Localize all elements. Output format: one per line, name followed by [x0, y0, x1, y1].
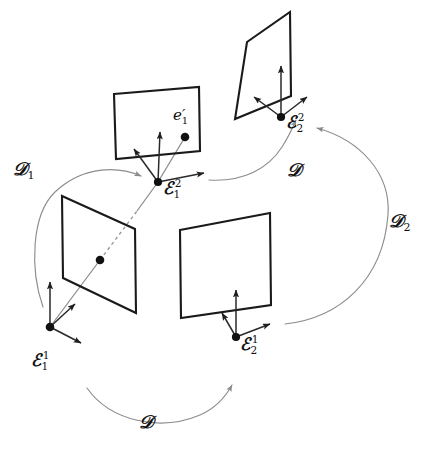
axis-depth-E-2-2: [254, 97, 281, 117]
frame-label-E-2-2: ℰ22: [286, 112, 304, 133]
ray-segment-upper: [137, 182, 158, 211]
frame-origin-dot-E-2-1: [232, 333, 240, 341]
frame-label-E-2-2-sub: 2: [297, 122, 304, 134]
map-label-D-bottom: 𝒟: [139, 413, 154, 434]
map-curve-D-top: [209, 120, 296, 180]
point-label-e-prime-1-sub: 1: [182, 115, 188, 126]
frame-origin-dot-E-1-1: [46, 323, 55, 332]
frame-origin-dot-E-1-2: [154, 178, 162, 186]
frame-label-E-2-1-sub: 2: [251, 344, 258, 356]
axis-depth-E-1-2: [134, 149, 158, 182]
frame-label-E-2-2-base: ℰ: [286, 112, 296, 132]
map-label-D-top: 𝒟: [287, 161, 302, 182]
frame-label-E-2-1: ℰ21: [240, 334, 258, 355]
ray-segment-lower: [50, 260, 100, 327]
frame-label-E-1-1-sub: 1: [42, 360, 49, 372]
diagram-canvas: [0, 0, 427, 452]
map-label-D-2-base: 𝒟: [389, 210, 403, 231]
map-label-D-2: 𝒟2: [389, 212, 411, 233]
frame-label-E-2-1-sup: 1: [252, 333, 259, 345]
epipole-point-dot: [181, 133, 190, 142]
frame-label-E-1-1-sup: 1: [43, 349, 50, 361]
map-label-D-2-sub: 2: [404, 221, 411, 234]
image-plane-bottom-right: [180, 213, 271, 318]
map-label-D-1-base: 𝒟: [13, 158, 27, 179]
frame-label-E-2-2-sup: 2: [298, 111, 305, 123]
frame-label-E-1-2-sub: 1: [174, 188, 181, 200]
scene-point-dot-left-plane: [96, 256, 105, 265]
axis-depth-E-2-1: [222, 313, 236, 337]
geometry-diagram-figure: ℰ12 ℰ22 ℰ11 ℰ21 e′1 𝒟1 𝒟 𝒟2 𝒟: [0, 0, 427, 452]
axis-depth-E-1-1: [50, 304, 75, 327]
axis-up-E-1-2: [158, 132, 160, 182]
point-label-e-prime-1-base: e: [173, 106, 182, 124]
ray-segment-to-epipole: [158, 137, 185, 182]
axis-right-E-1-1: [50, 327, 81, 343]
frame-axes-E-1-1: [46, 282, 81, 343]
map-curve-D-bottom: [87, 385, 232, 423]
frame-label-E-1-1: ℰ11: [31, 350, 49, 371]
frame-label-E-1-2: ℰ12: [163, 178, 181, 199]
frame-label-E-1-2-base: ℰ: [163, 178, 173, 198]
ray-segment-occluded: [100, 211, 137, 260]
frame-label-E-1-1-base: ℰ: [31, 350, 41, 370]
point-label-e-prime-1: e′1: [173, 108, 188, 126]
projection-ray-group: [50, 137, 185, 327]
map-label-D-1-sub: 1: [28, 169, 35, 182]
map-label-D-bottom-base: 𝒟: [139, 411, 153, 432]
map-label-D-top-base: 𝒟: [287, 159, 301, 180]
map-label-D-1: 𝒟1: [13, 160, 35, 181]
frame-origin-dot-E-2-2: [277, 113, 285, 121]
frame-label-E-1-2-sup: 2: [175, 177, 182, 189]
frame-label-E-2-1-base: ℰ: [240, 334, 250, 354]
map-curve-D-2: [285, 128, 388, 324]
